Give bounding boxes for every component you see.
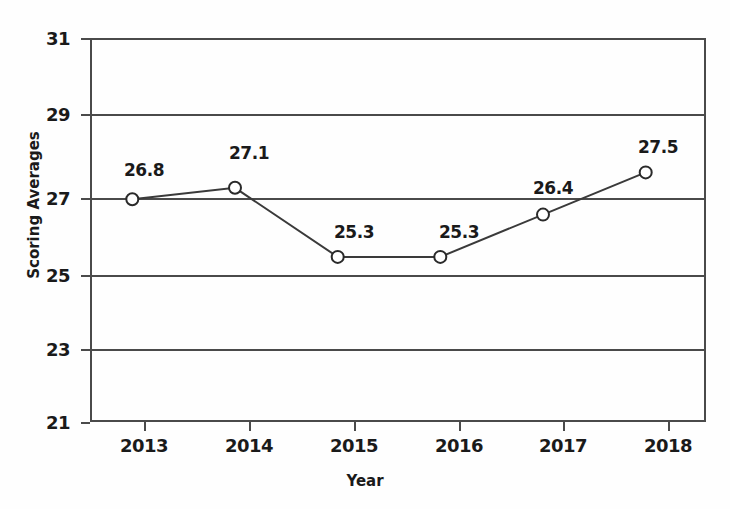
- y-tick-mark-31: [81, 38, 90, 40]
- y-tick-mark-29: [81, 114, 90, 116]
- y-tick-mark-25: [81, 275, 90, 277]
- gridline-23: [90, 349, 706, 351]
- x-tick-label-2015: 2015: [309, 435, 399, 456]
- x-tick-label-2013: 2013: [99, 435, 189, 456]
- point-label-2017: 26.4: [513, 178, 593, 198]
- line-chart: 31 29 27 25 23 21 2013 2014 2015 2016 20…: [0, 0, 730, 509]
- point-label-2014: 27.1: [209, 143, 289, 163]
- gridline-29: [90, 114, 706, 116]
- gridline-25: [90, 275, 706, 277]
- x-tick-mark-2015: [354, 422, 356, 431]
- y-axis-title: Scoring Averages: [25, 85, 43, 325]
- point-label-2015: 25.3: [314, 222, 394, 242]
- y-tick-label-21: 21: [18, 412, 70, 433]
- point-label-2016: 25.3: [419, 222, 499, 242]
- x-tick-label-2017: 2017: [518, 435, 608, 456]
- x-tick-label-2016: 2016: [414, 435, 504, 456]
- x-tick-mark-2017: [563, 422, 565, 431]
- x-tick-mark-2014: [249, 422, 251, 431]
- x-tick-label-2018: 2018: [623, 435, 713, 456]
- y-tick-mark-21: [81, 422, 90, 424]
- clipped-title-remnant: [0, 0, 730, 6]
- gridline-27: [90, 198, 706, 200]
- point-label-2013: 26.8: [104, 160, 184, 180]
- x-axis-title: Year: [0, 472, 730, 490]
- x-tick-mark-2013: [144, 422, 146, 431]
- plot-area: [90, 38, 706, 422]
- x-tick-mark-2018: [668, 422, 670, 431]
- y-tick-label-31: 31: [18, 28, 70, 49]
- y-tick-mark-23: [81, 349, 90, 351]
- y-tick-mark-27: [81, 198, 90, 200]
- y-tick-label-23: 23: [18, 339, 70, 360]
- x-tick-label-2014: 2014: [204, 435, 294, 456]
- x-tick-mark-2016: [459, 422, 461, 431]
- point-label-2018: 27.5: [618, 137, 698, 157]
